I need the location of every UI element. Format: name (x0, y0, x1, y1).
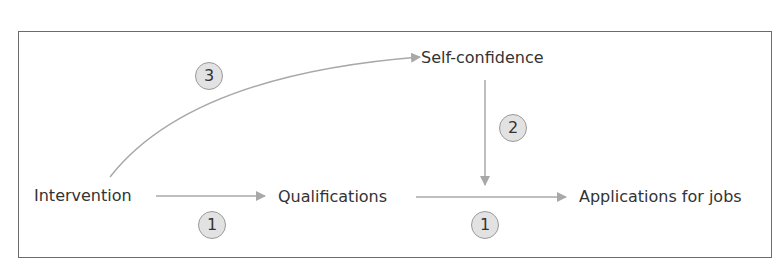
arrow-intervention-to-self-confidence (110, 57, 420, 177)
node-qualifications: Qualifications (278, 187, 387, 207)
badge-qualifications-to-applications: 1 (471, 211, 499, 239)
badge-self-confidence-to-link: 2 (499, 114, 527, 142)
badge-intervention-to-self-confidence: 3 (195, 62, 223, 90)
node-self-confidence: Self-confidence (421, 48, 544, 68)
badge-intervention-to-qualifications: 1 (198, 211, 226, 239)
diagram-arrows (0, 0, 784, 275)
node-applications-for-jobs: Applications for jobs (579, 187, 742, 207)
node-intervention: Intervention (34, 186, 132, 206)
